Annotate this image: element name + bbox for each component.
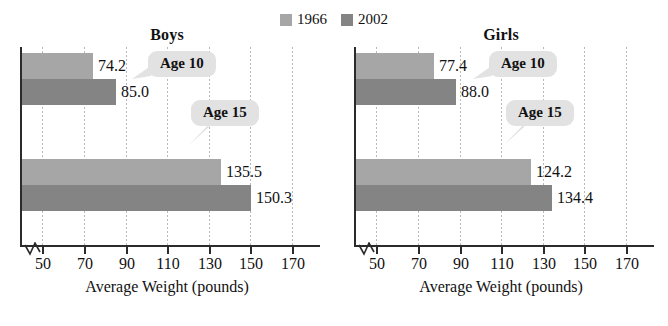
callout-label-girls-age15: Age 15 — [518, 104, 562, 120]
x-tick-label-130: 130 — [198, 255, 222, 273]
x-axis-line-boys — [20, 245, 320, 247]
x-tick-110 — [167, 245, 169, 254]
bar-label-girls-age10-2002: 88.0 — [461, 79, 489, 105]
callout-boys-age10: Age 10 — [148, 51, 216, 77]
callout-tail-icon — [473, 65, 493, 81]
x-tick-label-50: 50 — [369, 255, 385, 273]
bar-girls-age10-1966 — [356, 53, 434, 79]
bar-girls-age15-1966 — [356, 159, 531, 185]
x-tick-label-70: 70 — [77, 255, 93, 273]
x-tick-130 — [543, 245, 545, 254]
x-tick-label-170: 170 — [615, 255, 639, 273]
x-tick-130 — [209, 245, 211, 254]
callout-label-boys-age10: Age 10 — [160, 55, 204, 71]
callout-girls-age10: Age 10 — [489, 51, 557, 77]
legend-swatch-2002-icon — [341, 14, 353, 26]
gridline-170 — [292, 47, 293, 245]
bar-boys-age10-2002 — [22, 79, 116, 105]
callout-tail-icon — [189, 122, 211, 146]
plot-area-girls: 77.4 88.0 124.2 134.4 Age 10 Age 15 — [354, 47, 646, 245]
x-tick-label-170: 170 — [281, 255, 305, 273]
x-tick-90 — [126, 245, 128, 254]
bar-girls-age15-2002 — [356, 185, 552, 211]
x-axis-line-girls — [354, 245, 654, 247]
panel-boys: Boys 74.2 85.0 135.5 150.3 — [0, 26, 334, 326]
x-tick-150 — [584, 245, 586, 254]
callout-tail-icon — [132, 65, 152, 81]
x-tick-labels-girls: 50 70 90 110 130 150 170 — [334, 255, 668, 275]
x-tick-70 — [418, 245, 420, 254]
x-tick-label-150: 150 — [573, 255, 597, 273]
callout-label-girls-age10: Age 10 — [501, 55, 545, 71]
bar-label-boys-age10-1966: 74.2 — [98, 53, 126, 79]
bar-label-girls-age10-1966: 77.4 — [439, 53, 467, 79]
x-tick-label-90: 90 — [119, 255, 135, 273]
bar-label-girls-age15-1966: 124.2 — [536, 159, 572, 185]
panel-girls: Girls 77.4 88.0 124.2 134.4 Age 10 — [334, 26, 668, 326]
x-axis-title-boys: Average Weight (pounds) — [0, 278, 334, 296]
x-tick-50 — [42, 245, 44, 254]
x-tick-70 — [84, 245, 86, 254]
gridline-150 — [584, 47, 585, 245]
x-tick-110 — [501, 245, 503, 254]
x-tick-170 — [626, 245, 628, 254]
callout-boys-age15: Age 15 — [191, 100, 259, 126]
plot-area-boys: 74.2 85.0 135.5 150.3 Age 10 Age 15 — [20, 47, 312, 245]
x-tick-label-90: 90 — [453, 255, 469, 273]
x-tick-label-130: 130 — [532, 255, 556, 273]
bar-girls-age10-2002 — [356, 79, 456, 105]
x-tick-90 — [460, 245, 462, 254]
x-axis-title-girls: Average Weight (pounds) — [334, 278, 668, 296]
callout-tail-icon — [504, 122, 526, 146]
x-tick-label-110: 110 — [490, 255, 513, 273]
gridline-170 — [626, 47, 627, 245]
x-tick-150 — [250, 245, 252, 254]
x-tick-label-70: 70 — [411, 255, 427, 273]
panel-title-boys: Boys — [0, 26, 334, 44]
callout-girls-age15: Age 15 — [506, 100, 574, 126]
bar-boys-age10-1966 — [22, 53, 93, 79]
x-tick-label-50: 50 — [35, 255, 51, 273]
bar-label-boys-age15-1966: 135.5 — [226, 159, 262, 185]
callout-label-boys-age15: Age 15 — [203, 104, 247, 120]
legend-swatch-1966-icon — [280, 14, 292, 26]
x-tick-50 — [376, 245, 378, 254]
bar-label-boys-age10-2002: 85.0 — [121, 79, 149, 105]
gridline-150 — [250, 47, 251, 245]
gridline-90 — [126, 47, 127, 245]
panel-title-girls: Girls — [334, 26, 668, 44]
bar-label-girls-age15-2002: 134.4 — [557, 185, 593, 211]
x-tick-label-110: 110 — [156, 255, 179, 273]
x-tick-label-150: 150 — [239, 255, 263, 273]
x-tick-170 — [292, 245, 294, 254]
bar-boys-age15-1966 — [22, 159, 221, 185]
chart-figure: 1966 2002 Boys 74.2 85.0 135.5 — [0, 0, 668, 326]
bar-label-boys-age15-2002: 150.3 — [256, 185, 292, 211]
x-tick-labels-boys: 50 70 90 110 130 150 170 — [0, 255, 334, 275]
bar-boys-age15-2002 — [22, 185, 251, 211]
